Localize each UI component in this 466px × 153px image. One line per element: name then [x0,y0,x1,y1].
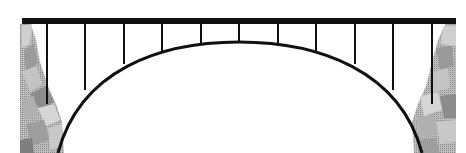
hangers [47,24,432,104]
bridge-deck [22,18,456,24]
bridge-illustration [0,0,466,153]
left-rock-abutment [20,22,64,153]
arch [58,42,422,153]
right-rock-abutment [412,22,456,153]
arch-bridge-diagram [0,0,466,153]
